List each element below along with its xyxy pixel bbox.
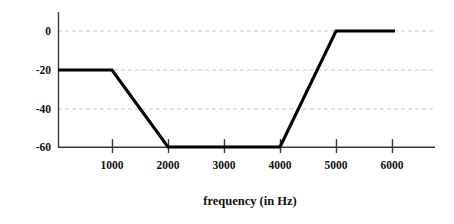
x-axis-title: frequency (in Hz) (203, 194, 297, 208)
magnitude-response-line (58, 31, 395, 147)
y-tick-label-minus20: -20 (36, 64, 52, 76)
x-tick-label-2000: 2000 (157, 159, 180, 171)
x-tick-label-4000: 4000 (269, 159, 292, 171)
gridlines-group (58, 31, 434, 109)
x-tick-label-1000: 1000 (101, 159, 124, 171)
frequency-response-chart: 1000 2000 3000 4000 5000 6000 0 -20 -40 … (0, 0, 454, 224)
x-tick-label-6000: 6000 (381, 159, 404, 171)
y-tick-label-0: 0 (45, 25, 51, 37)
y-tick-label-minus60: -60 (36, 141, 52, 153)
chart-page: 1000 2000 3000 4000 5000 6000 0 -20 -40 … (0, 0, 454, 224)
y-tick-label-minus40: -40 (36, 103, 52, 115)
x-tick-labels-group: 1000 2000 3000 4000 5000 6000 (101, 159, 404, 171)
y-tick-labels-group: 0 -20 -40 -60 (36, 25, 52, 153)
x-tick-label-5000: 5000 (325, 159, 348, 171)
x-tick-label-3000: 3000 (213, 159, 236, 171)
data-series-group (58, 31, 395, 147)
